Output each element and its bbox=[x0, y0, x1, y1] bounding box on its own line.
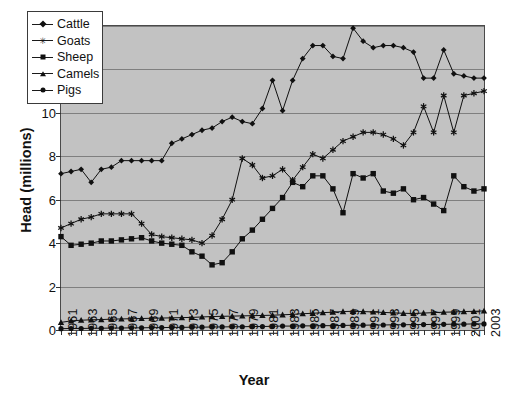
legend-item-sheep[interactable]: Sheep bbox=[32, 49, 97, 66]
x-tick-mark bbox=[172, 330, 173, 335]
diamond-marker-icon bbox=[39, 21, 46, 28]
legend-label: Goats bbox=[57, 35, 90, 48]
x-tick-mark bbox=[192, 330, 193, 335]
y-tick-label: 0 bbox=[49, 323, 56, 338]
x-tick-label: 2003 bbox=[489, 308, 503, 337]
series-sheep bbox=[58, 171, 486, 268]
series-layer bbox=[61, 26, 484, 330]
x-tick-mark bbox=[212, 330, 213, 335]
x-tick-mark bbox=[414, 330, 415, 335]
x-tick-mark bbox=[353, 330, 354, 335]
legend-swatch-sheep bbox=[32, 57, 53, 58]
x-tick-mark bbox=[293, 330, 294, 335]
x-tick-mark bbox=[273, 330, 274, 335]
x-tick-mark bbox=[152, 330, 153, 335]
legend-label: Sheep bbox=[57, 51, 93, 64]
x-tick-mark bbox=[121, 330, 122, 335]
legend-label: Pigs bbox=[57, 84, 81, 97]
x-tick-mark bbox=[202, 330, 203, 335]
legend-item-cattle[interactable]: Cattle bbox=[32, 16, 97, 33]
x-tick-mark bbox=[444, 330, 445, 335]
x-tick-mark bbox=[424, 330, 425, 335]
x-axis-title: Year bbox=[0, 372, 508, 388]
x-tick-mark bbox=[262, 330, 263, 335]
legend-swatch-goats: ✳ bbox=[32, 40, 53, 41]
y-tick-label: 10 bbox=[42, 105, 56, 120]
x-tick-mark bbox=[111, 330, 112, 335]
x-tick-mark bbox=[484, 330, 485, 335]
y-tick-label: 8 bbox=[49, 149, 56, 164]
x-tick-mark bbox=[283, 330, 284, 335]
chart-legend: Cattle✳GoatsSheepCamelsPigs bbox=[27, 11, 103, 104]
x-tick-mark bbox=[232, 330, 233, 335]
x-tick-mark bbox=[313, 330, 314, 335]
x-tick-mark bbox=[373, 330, 374, 335]
x-tick-mark bbox=[464, 330, 465, 335]
x-tick-mark bbox=[142, 330, 143, 335]
x-tick-mark bbox=[252, 330, 253, 335]
x-tick-mark bbox=[383, 330, 384, 335]
square-marker-icon bbox=[40, 55, 45, 60]
x-tick-mark bbox=[333, 330, 334, 335]
plot-area: 0246810121419611963196519671969197119731… bbox=[60, 25, 485, 331]
legend-item-camels[interactable]: Camels bbox=[32, 66, 97, 83]
legend-label: Cattle bbox=[57, 18, 90, 31]
x-tick-mark bbox=[303, 330, 304, 335]
x-tick-mark bbox=[454, 330, 455, 335]
circle-marker-icon bbox=[40, 88, 45, 93]
x-tick-mark bbox=[242, 330, 243, 335]
legend-label: Camels bbox=[57, 68, 99, 81]
series-goats bbox=[58, 88, 487, 246]
x-tick-mark bbox=[393, 330, 394, 335]
x-tick-mark bbox=[343, 330, 344, 335]
x-tick-mark bbox=[222, 330, 223, 335]
x-tick-mark bbox=[182, 330, 183, 335]
legend-item-goats[interactable]: ✳Goats bbox=[32, 33, 97, 50]
star-marker-icon: ✳ bbox=[39, 37, 46, 44]
legend-item-pigs[interactable]: Pigs bbox=[32, 82, 97, 99]
y-axis-title: Head (millions) bbox=[18, 85, 34, 275]
y-tick-label: 6 bbox=[49, 192, 56, 207]
x-tick-mark bbox=[434, 330, 435, 335]
series-pigs bbox=[58, 321, 486, 331]
line-chart: Head (millions) Year 0246810121419611963… bbox=[0, 0, 508, 399]
triangle-marker-icon bbox=[40, 71, 46, 76]
legend-swatch-cattle bbox=[32, 24, 53, 25]
x-tick-mark bbox=[474, 330, 475, 335]
x-tick-mark bbox=[323, 330, 324, 335]
y-tick-label: 2 bbox=[49, 279, 56, 294]
x-tick-mark bbox=[162, 330, 163, 335]
x-tick-mark bbox=[403, 330, 404, 335]
x-tick-mark bbox=[132, 330, 133, 335]
y-tick-label: 4 bbox=[49, 236, 56, 251]
legend-swatch-pigs bbox=[32, 90, 53, 91]
legend-swatch-camels bbox=[32, 73, 53, 74]
x-tick-mark bbox=[363, 330, 364, 335]
